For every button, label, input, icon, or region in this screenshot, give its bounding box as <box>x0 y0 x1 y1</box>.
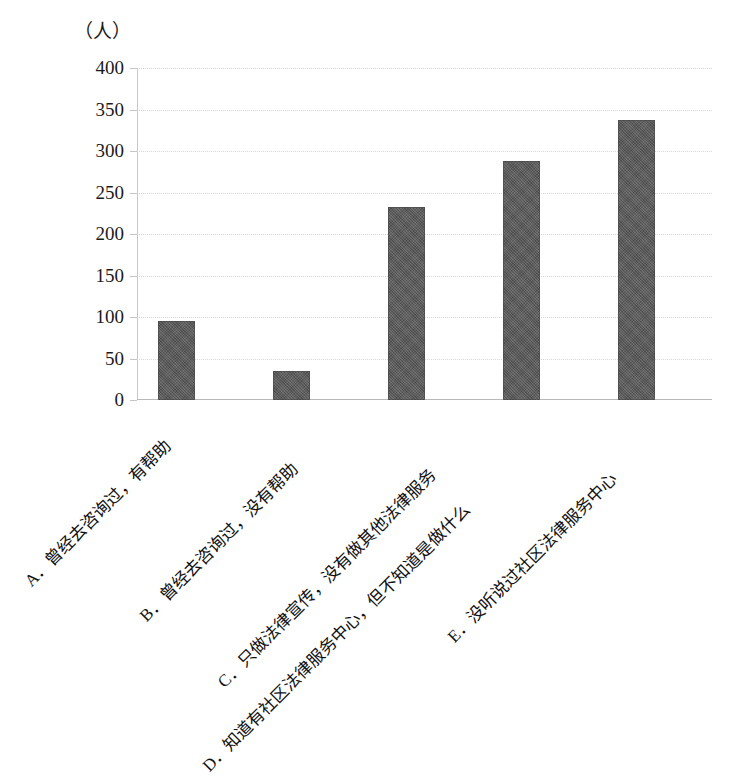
y-axis-tick <box>130 193 137 194</box>
y-axis-tick <box>130 276 137 277</box>
y-axis-tick-label: 400 <box>72 58 124 77</box>
y-axis-tick-label: 50 <box>72 349 124 368</box>
y-axis-tick-label: 250 <box>72 183 124 202</box>
y-axis-tick-label: 100 <box>72 307 124 326</box>
bar-e <box>618 120 655 400</box>
bar-a <box>158 321 195 400</box>
y-axis-tick <box>130 151 137 152</box>
y-axis-tick-label: 0 <box>72 390 124 409</box>
gridline <box>137 110 712 111</box>
y-axis-tick-label: 150 <box>72 266 124 285</box>
y-axis-tick-label: 350 <box>72 100 124 119</box>
bar-b <box>273 371 310 400</box>
y-axis-tick <box>130 234 137 235</box>
y-axis-tick <box>130 400 137 401</box>
y-axis-tick <box>130 317 137 318</box>
y-axis-tick-label: 200 <box>72 224 124 243</box>
bar-chart-figure: （人） 400350300250200150100500 A．曾经去咨询过，有帮… <box>0 0 731 779</box>
y-axis-tick <box>130 359 137 360</box>
bar-c <box>388 207 425 400</box>
plot-area <box>137 68 712 400</box>
scan-artifact-caption <box>150 748 590 762</box>
bar-d <box>503 161 540 400</box>
y-axis-tick <box>130 68 137 69</box>
gridline <box>137 68 712 69</box>
y-axis-tick-label: 300 <box>72 141 124 160</box>
y-axis-tick <box>130 110 137 111</box>
